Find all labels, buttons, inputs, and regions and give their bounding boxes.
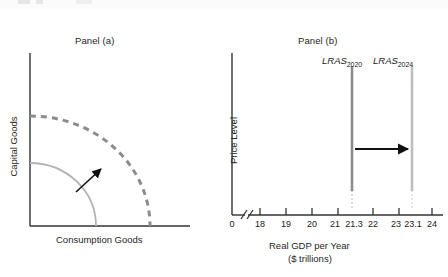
panel-b: Panel (b) Price Level Real GDP per Year … [215, 9, 448, 277]
panel-b-y-axis-label: Price Level [228, 106, 239, 176]
panel-b-x-axis-label-line1: Real GDP per Year [269, 240, 350, 251]
panel-a-ppf-shifted [30, 116, 150, 226]
x-tick-label-0: 0 [229, 219, 234, 229]
x-tick-label-21: 21 [330, 219, 340, 229]
figure-card: Panel (a) Capital Goods Consumption Good… [0, 9, 448, 271]
x-tick-label-21-3: 21.3 [345, 219, 363, 229]
lras-2020-label: LRAS2020 [322, 55, 362, 66]
top-cutoff-artifact [0, 0, 448, 9]
lras-2024-label: LRAS2024 [373, 55, 413, 66]
panel-a-y-axis-label: Capital Goods [8, 112, 19, 182]
panel-b-x-axis-label-line2: ($ trillions) [288, 253, 332, 264]
x-tick-label-18: 18 [255, 219, 265, 229]
panel-a: Panel (a) Capital Goods Consumption Good… [0, 9, 215, 277]
panel-b-plot [215, 9, 448, 277]
panel-a-growth-arrow [76, 169, 101, 192]
x-tick-label-23: 23 [391, 219, 401, 229]
x-tick-label-20: 20 [307, 219, 317, 229]
x-tick-label-23-1: 23.1 [404, 219, 422, 229]
figure-container: Panel (a) Capital Goods Consumption Good… [0, 0, 448, 277]
panel-a-x-axis-label: Consumption Goods [56, 234, 143, 245]
panel-a-title: Panel (a) [75, 35, 114, 46]
panel-a-ppf-initial [30, 163, 96, 226]
panel-b-title: Panel (b) [298, 35, 337, 46]
x-tick-label-19: 19 [281, 219, 291, 229]
x-tick-label-24: 24 [427, 219, 437, 229]
x-tick-label-22: 22 [368, 219, 378, 229]
x-axis-ticks [260, 208, 432, 215]
